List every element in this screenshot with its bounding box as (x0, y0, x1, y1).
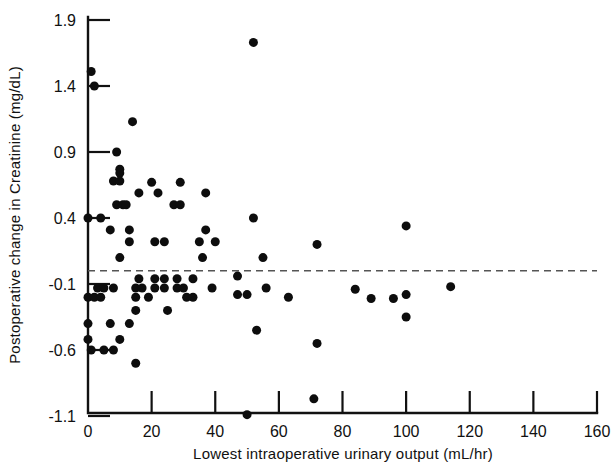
data-point (134, 274, 143, 283)
data-point (115, 169, 124, 178)
data-point-series (84, 38, 456, 419)
data-point (131, 293, 140, 302)
data-point (367, 294, 376, 303)
data-point (258, 253, 267, 262)
data-point (176, 178, 185, 187)
data-point (115, 335, 124, 344)
x-axis-ticks (152, 391, 597, 413)
data-point (243, 290, 252, 299)
data-point (125, 237, 134, 246)
data-point (99, 283, 108, 292)
data-point (211, 237, 220, 246)
data-point (150, 237, 159, 246)
data-point (109, 283, 118, 292)
data-point (160, 237, 169, 246)
data-point (402, 313, 411, 322)
x-tick-label: 40 (206, 423, 224, 440)
data-point (144, 293, 153, 302)
y-tick-label: 0.9 (54, 144, 76, 161)
data-point (150, 274, 159, 283)
data-point (115, 253, 124, 262)
data-point (233, 290, 242, 299)
data-point (249, 214, 258, 223)
data-point (96, 214, 105, 223)
data-point (99, 346, 108, 355)
data-point (313, 339, 322, 348)
data-point (402, 221, 411, 230)
data-point (188, 293, 197, 302)
x-tick-label: 80 (334, 423, 352, 440)
data-point (160, 274, 169, 283)
data-point (188, 274, 197, 283)
data-point (252, 326, 261, 335)
y-tick-label: 1.4 (54, 78, 76, 95)
data-point (160, 283, 169, 292)
data-point (122, 200, 131, 209)
data-point (179, 283, 188, 292)
x-tick-label: 0 (84, 423, 93, 440)
data-point (125, 225, 134, 234)
y-tick-label: 1.9 (54, 12, 76, 29)
data-point (309, 394, 318, 403)
data-point (112, 148, 121, 157)
data-point (84, 214, 93, 223)
x-axis-title: Lowest intraoperative urinary output (mL… (193, 445, 493, 462)
y-tick-label: 0.4 (54, 210, 76, 227)
x-tick-label: 60 (270, 423, 288, 440)
data-point (313, 240, 322, 249)
data-point (106, 225, 115, 234)
data-point (233, 272, 242, 281)
y-tick-label: -0.6 (48, 342, 76, 359)
data-point (138, 283, 147, 292)
y-tick-label: -0.1 (48, 276, 76, 293)
data-point (96, 293, 105, 302)
y-axis-tick-labels: -1.1-0.6-0.10.40.91.41.9 (48, 12, 76, 425)
y-tick-label: -1.1 (48, 408, 76, 425)
data-point (173, 274, 182, 283)
x-tick-label: 100 (393, 423, 420, 440)
data-point (243, 410, 252, 419)
data-point (84, 319, 93, 328)
x-tick-label: 20 (143, 423, 161, 440)
scatter-plot-figure: -1.1-0.6-0.10.40.91.41.9 020406080100120… (0, 0, 615, 465)
data-point (115, 177, 124, 186)
x-tick-label: 160 (584, 423, 611, 440)
data-point (128, 117, 137, 126)
data-point (249, 38, 258, 47)
data-point (125, 319, 134, 328)
data-point (163, 306, 172, 315)
data-point (87, 346, 96, 355)
data-point (195, 237, 204, 246)
axis-frame (88, 17, 597, 413)
data-point (153, 188, 162, 197)
data-point (147, 178, 156, 187)
data-point (389, 294, 398, 303)
data-point (84, 335, 93, 344)
x-axis-tick-labels: 020406080100120140160 (84, 423, 611, 440)
data-point (150, 283, 159, 292)
data-point (176, 200, 185, 209)
data-point (446, 282, 455, 291)
data-point (402, 290, 411, 299)
data-point (90, 82, 99, 91)
data-point (208, 283, 217, 292)
data-point (351, 285, 360, 294)
data-point (131, 359, 140, 368)
x-tick-label: 120 (456, 423, 483, 440)
data-point (201, 188, 210, 197)
data-point (134, 188, 143, 197)
data-point (201, 225, 210, 234)
y-axis-title: Postoperative change in Creatinine (mg/d… (6, 66, 23, 364)
data-point (284, 293, 293, 302)
data-point (106, 319, 115, 328)
x-tick-label: 140 (520, 423, 547, 440)
data-point (131, 306, 140, 315)
data-point (87, 67, 96, 76)
data-point (109, 346, 118, 355)
data-point (198, 253, 207, 262)
data-point (262, 283, 271, 292)
